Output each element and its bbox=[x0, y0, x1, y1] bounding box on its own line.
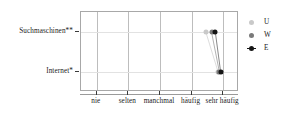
vertical-gridline-häufig bbox=[192, 12, 193, 90]
x-axis-tick bbox=[222, 91, 223, 95]
dot-plot-figure: Suchmaschinen**Internet* nieseltenmanchm… bbox=[0, 0, 288, 115]
connector-line-u bbox=[206, 32, 218, 72]
plot-area bbox=[80, 11, 238, 91]
legend-item-e: E bbox=[247, 42, 287, 55]
x-axis-tick bbox=[127, 91, 128, 95]
x-axis-label-häufig: häufig bbox=[181, 97, 200, 106]
horizontal-gridline bbox=[81, 72, 237, 73]
y-axis-tick bbox=[75, 31, 79, 32]
y-axis-label: Internet* bbox=[46, 67, 73, 75]
legend-label-w: W bbox=[264, 30, 271, 40]
legend-marker-w bbox=[249, 33, 254, 38]
connector-line-e bbox=[215, 32, 220, 72]
y-axis-tick bbox=[75, 71, 79, 72]
x-axis-tick bbox=[96, 91, 97, 95]
x-axis-tick bbox=[159, 91, 160, 95]
x-axis-label-manchmal: manchmal bbox=[144, 97, 175, 106]
connector-line-w bbox=[212, 32, 220, 72]
data-point-u bbox=[203, 30, 208, 35]
vertical-gridline-sehr-häufig bbox=[223, 12, 224, 90]
y-axis-label: Suchmaschinen** bbox=[19, 27, 73, 35]
legend-item-u: U bbox=[247, 16, 287, 29]
x-axis-tick bbox=[191, 91, 192, 95]
x-axis-label-nie: nie bbox=[91, 97, 100, 106]
legend-marker-e bbox=[249, 46, 254, 51]
vertical-gridline-selten bbox=[128, 12, 129, 90]
vertical-gridline-nie bbox=[97, 12, 98, 90]
data-point-e bbox=[218, 70, 223, 75]
x-axis-label-selten: selten bbox=[119, 97, 136, 106]
vertical-gridline-manchmal bbox=[160, 12, 161, 90]
x-axis-label-sehr-häufig: sehr häufig bbox=[206, 97, 239, 106]
legend-label-e: E bbox=[264, 43, 268, 53]
legend: UWE bbox=[247, 16, 287, 55]
legend-marker-u bbox=[249, 20, 254, 25]
legend-label-u: U bbox=[264, 17, 269, 27]
data-point-e bbox=[213, 30, 218, 35]
legend-item-w: W bbox=[247, 29, 287, 42]
